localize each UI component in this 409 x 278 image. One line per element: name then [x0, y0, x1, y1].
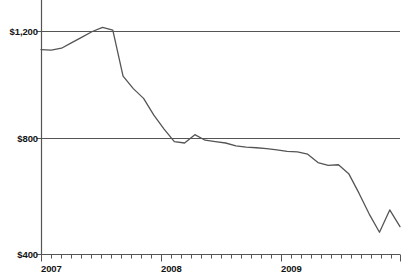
x-axis-label-2009: 2009: [281, 263, 302, 274]
x-axis-ticks: [42, 255, 401, 262]
chart-plot-area: [0, 0, 409, 278]
x-axis-label-2007: 2007: [41, 263, 62, 274]
data-series-line: [41, 27, 400, 232]
y-axis-label-400: $400: [17, 249, 38, 260]
line-chart: $1,200 $800 $400 2007 2008 2009: [0, 0, 409, 278]
x-axis-label-2008: 2008: [161, 263, 182, 274]
y-axis-label-800: $800: [17, 133, 38, 144]
gridlines: [41, 32, 400, 139]
y-axis-label-1200: $1,200: [10, 26, 38, 37]
